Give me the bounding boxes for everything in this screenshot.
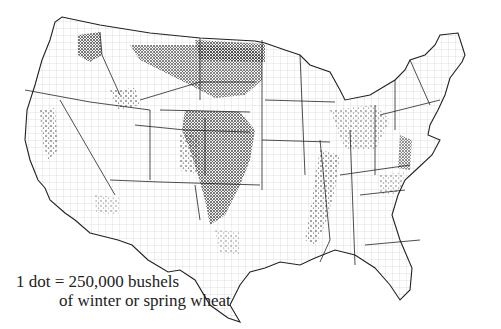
legend-line-2: of winter or spring wheat — [16, 291, 231, 310]
legend-line-1: 1 dot = 250,000 bushels — [16, 272, 231, 291]
map-legend: 1 dot = 250,000 bushels of winter or spr… — [16, 272, 231, 310]
